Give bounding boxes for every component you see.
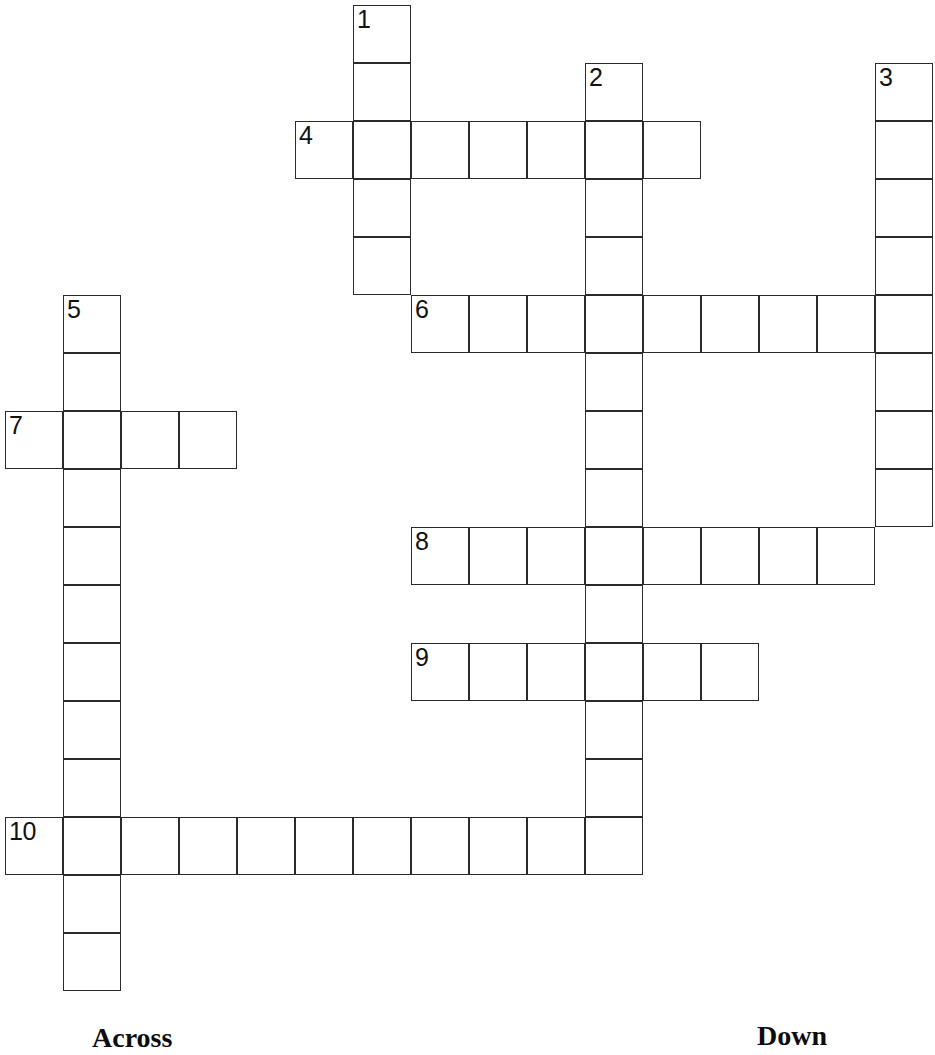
grid-cell-numbered[interactable]: 5 [63, 295, 121, 353]
grid-cell[interactable] [643, 643, 701, 701]
grid-cell[interactable] [295, 817, 353, 875]
grid-cell[interactable] [63, 527, 121, 585]
grid-cell[interactable] [353, 179, 411, 237]
grid-cell[interactable] [121, 817, 179, 875]
grid-cell[interactable] [585, 585, 643, 643]
cell-number: 9 [415, 644, 428, 671]
grid-cell[interactable] [527, 527, 585, 585]
grid-cell-numbered[interactable]: 1 [353, 5, 411, 63]
grid-cell[interactable] [585, 237, 643, 295]
grid-cell[interactable] [527, 643, 585, 701]
crossword-grid[interactable]: 12345678910 [0, 0, 935, 1015]
grid-cell-numbered[interactable]: 10 [5, 817, 63, 875]
grid-cell[interactable] [353, 121, 411, 179]
grid-cell[interactable] [875, 411, 933, 469]
grid-cell[interactable] [585, 527, 643, 585]
grid-cell[interactable] [121, 411, 179, 469]
grid-cell[interactable] [585, 643, 643, 701]
grid-cell-numbered[interactable]: 2 [585, 63, 643, 121]
grid-cell[interactable] [585, 353, 643, 411]
grid-cell[interactable] [817, 295, 875, 353]
grid-cell[interactable] [63, 817, 121, 875]
grid-cell[interactable] [63, 701, 121, 759]
grid-cell[interactable] [759, 295, 817, 353]
grid-cell-numbered[interactable]: 9 [411, 643, 469, 701]
grid-cell[interactable] [63, 469, 121, 527]
grid-cell[interactable] [875, 237, 933, 295]
grid-cell[interactable] [353, 237, 411, 295]
grid-cell[interactable] [585, 817, 643, 875]
grid-cell[interactable] [63, 875, 121, 933]
grid-cell[interactable] [701, 527, 759, 585]
grid-cell[interactable] [585, 295, 643, 353]
grid-cell[interactable] [875, 121, 933, 179]
grid-cell[interactable] [759, 527, 817, 585]
cell-number: 8 [415, 528, 428, 555]
cell-number: 7 [9, 412, 22, 439]
grid-cell-numbered[interactable]: 3 [875, 63, 933, 121]
grid-cell[interactable] [527, 817, 585, 875]
grid-cell-numbered[interactable]: 4 [295, 121, 353, 179]
cell-number: 1 [357, 6, 370, 33]
grid-cell[interactable] [875, 353, 933, 411]
grid-cell[interactable] [875, 179, 933, 237]
across-section-label: Across [92, 1022, 172, 1054]
grid-cell[interactable] [643, 121, 701, 179]
grid-cell[interactable] [527, 121, 585, 179]
grid-cell[interactable] [527, 295, 585, 353]
grid-cell[interactable] [817, 527, 875, 585]
grid-cell[interactable] [469, 121, 527, 179]
grid-cell[interactable] [585, 469, 643, 527]
grid-cell[interactable] [643, 295, 701, 353]
grid-cell[interactable] [179, 817, 237, 875]
grid-cell[interactable] [469, 527, 527, 585]
cell-number: 3 [879, 64, 892, 91]
grid-cell[interactable] [469, 295, 527, 353]
cell-number: 5 [67, 296, 80, 323]
grid-cell[interactable] [63, 759, 121, 817]
grid-cell[interactable] [469, 817, 527, 875]
grid-cell[interactable] [63, 353, 121, 411]
grid-cell[interactable] [237, 817, 295, 875]
cell-number: 6 [415, 296, 428, 323]
grid-cell[interactable] [875, 295, 933, 353]
crossword-puzzle: 12345678910 Across Down [0, 0, 935, 1055]
grid-cell[interactable] [63, 643, 121, 701]
grid-cell-numbered[interactable]: 7 [5, 411, 63, 469]
grid-cell-numbered[interactable]: 6 [411, 295, 469, 353]
grid-cell[interactable] [411, 121, 469, 179]
down-section-label: Down [757, 1020, 827, 1052]
grid-cell[interactable] [179, 411, 237, 469]
grid-cell[interactable] [411, 817, 469, 875]
grid-cell[interactable] [701, 643, 759, 701]
grid-cell[interactable] [353, 63, 411, 121]
grid-cell[interactable] [63, 411, 121, 469]
grid-cell[interactable] [585, 179, 643, 237]
grid-cell[interactable] [469, 643, 527, 701]
grid-cell-numbered[interactable]: 8 [411, 527, 469, 585]
grid-cell[interactable] [63, 585, 121, 643]
grid-cell[interactable] [585, 759, 643, 817]
cell-number: 4 [299, 122, 312, 149]
cell-number: 2 [589, 64, 602, 91]
grid-cell[interactable] [875, 469, 933, 527]
grid-cell[interactable] [63, 933, 121, 991]
grid-cell[interactable] [585, 121, 643, 179]
grid-cell[interactable] [353, 817, 411, 875]
grid-cell[interactable] [701, 295, 759, 353]
grid-cell[interactable] [585, 411, 643, 469]
cell-number: 10 [9, 818, 36, 845]
grid-cell[interactable] [585, 701, 643, 759]
grid-cell[interactable] [643, 527, 701, 585]
